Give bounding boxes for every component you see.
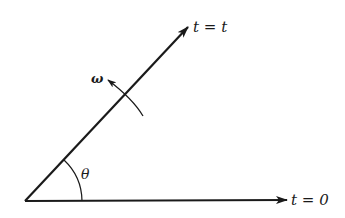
rotated-axis-arrow — [25, 27, 188, 201]
rotated-axis-label: t = t — [193, 18, 227, 36]
angle-arc — [64, 160, 82, 201]
rotation-diagram: t = t t = 0 ω θ — [0, 0, 345, 218]
angle-label: θ — [81, 166, 89, 182]
reference-axis-arrow — [25, 200, 287, 201]
angular-velocity-label: ω — [91, 71, 103, 86]
reference-axis-label: t = 0 — [291, 191, 329, 209]
diagram-graphics — [0, 0, 345, 218]
rotation-arrow-icon — [108, 80, 143, 116]
